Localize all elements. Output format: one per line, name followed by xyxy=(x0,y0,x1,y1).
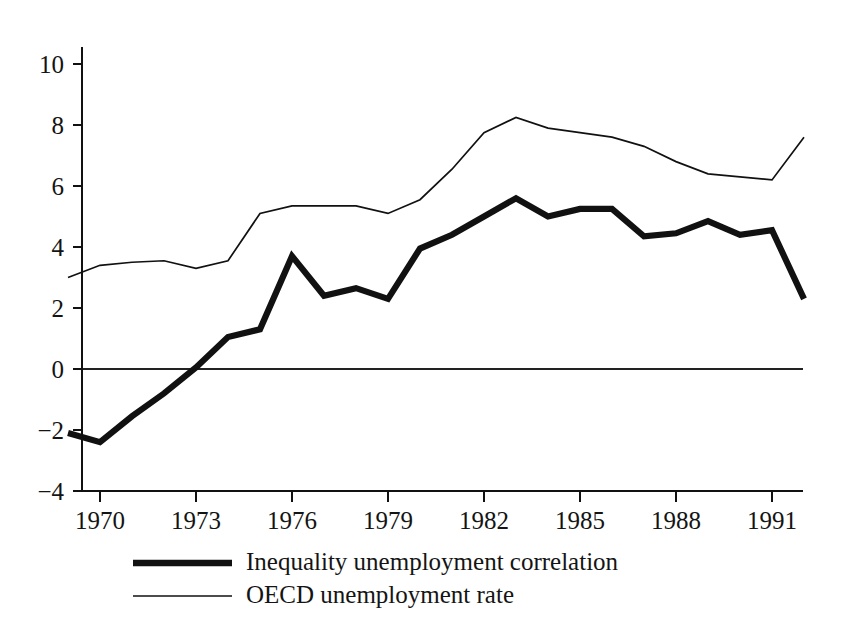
x-tick-label: 1973 xyxy=(171,507,221,534)
x-tick-label: 1991 xyxy=(747,507,797,534)
y-tick-label: 2 xyxy=(52,295,65,322)
legend-label-2: OECD unemployment rate xyxy=(246,581,514,608)
axes-layer xyxy=(82,47,803,491)
y-tick-label: 0 xyxy=(52,356,65,383)
line-chart: −4−20246810 1970197319761979198219851988… xyxy=(0,0,846,635)
y-tick-label: 10 xyxy=(39,51,64,78)
x-tick-label: 1985 xyxy=(555,507,605,534)
x-tick-label: 1979 xyxy=(363,507,413,534)
y-tick-label: −4 xyxy=(37,478,64,505)
x-axis-ticks: 19701973197619791982198519881991 xyxy=(75,491,797,534)
y-tick-label: 6 xyxy=(52,173,65,200)
y-tick-label: −2 xyxy=(37,417,64,444)
chart-legend: Inequality unemployment correlationOECD … xyxy=(133,548,619,608)
chart-figure: −4−20246810 1970197319761979198219851988… xyxy=(0,0,846,635)
legend-label-1: Inequality unemployment correlation xyxy=(246,548,619,575)
x-tick-label: 1988 xyxy=(651,507,701,534)
series-line-1 xyxy=(68,198,804,442)
x-tick-label: 1970 xyxy=(75,507,125,534)
x-tick-label: 1982 xyxy=(459,507,509,534)
x-tick-label: 1976 xyxy=(267,507,317,534)
y-tick-label: 8 xyxy=(52,112,65,139)
y-tick-label: 4 xyxy=(52,234,65,261)
series-layer xyxy=(68,117,804,442)
series-line-2 xyxy=(68,117,804,277)
